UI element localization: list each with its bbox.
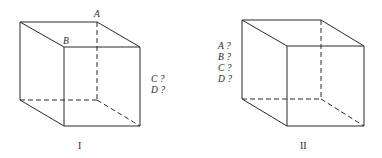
cube-i-caption: I — [78, 140, 81, 151]
cube-ii — [242, 20, 364, 126]
cube-ii-edge — [242, 20, 287, 46]
cube-ii-hidden-edge — [321, 99, 364, 126]
cube-i-question-c: C ? — [151, 74, 165, 84]
cube-ii-question-d: D ? — [217, 74, 232, 84]
cube-i-edge — [20, 22, 64, 47]
necker-cube-figure: A B C ? D ? I A ? B ? C ? D ? II — [0, 0, 382, 158]
cube-ii-question-b: B ? — [218, 52, 231, 62]
figure-canvas: A B C ? D ? I A ? B ? C ? D ? II — [0, 0, 382, 158]
cube-ii-edge — [321, 20, 364, 46]
cube-i-label-b: B — [63, 36, 69, 46]
cube-ii-edge — [242, 99, 287, 126]
cube-ii-question-a: A ? — [217, 41, 231, 51]
cube-i-hidden-edge — [97, 100, 140, 126]
cube-i-edge — [97, 22, 140, 47]
cube-ii-question-c: C ? — [218, 63, 232, 73]
cube-i-question-d: D ? — [150, 85, 165, 95]
cube-i — [20, 22, 140, 126]
cube-ii-caption: II — [300, 140, 307, 151]
cube-i-label-a: A — [93, 9, 100, 19]
cube-i-edge — [20, 100, 64, 126]
